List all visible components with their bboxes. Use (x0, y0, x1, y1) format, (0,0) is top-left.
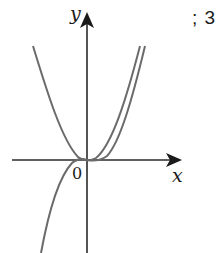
y-axis (80, 12, 94, 253)
cubic-curve (41, 46, 145, 253)
function-graph-figure: y x 0 ; 3 (0, 0, 220, 253)
origin-label: 0 (72, 166, 82, 182)
problem-number: ; 3 (192, 8, 216, 27)
graph-canvas (0, 0, 220, 253)
y-axis-label: y (70, 4, 81, 23)
x-axis-label: x (172, 166, 183, 185)
